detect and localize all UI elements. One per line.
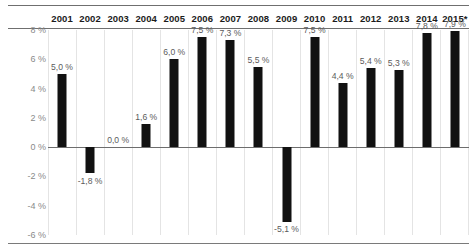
y-axis-tick-label: 0 % xyxy=(30,142,46,152)
year-header-2001: 2001 xyxy=(48,9,76,27)
bar-2010[interactable] xyxy=(310,37,319,147)
year-header-2011: 2011 xyxy=(329,9,357,27)
bar-value-label: 7,9 % xyxy=(444,19,466,29)
bar-column: 5,3 % xyxy=(385,30,413,235)
y-axis-tick-label: 8 % xyxy=(30,25,46,35)
bar-chart: 2001200220032004200520062007200820092010… xyxy=(0,0,473,252)
y-axis-tick-label: -4 % xyxy=(27,201,46,211)
bar-2015[interactable] xyxy=(450,31,459,147)
bar-column: 7,9 % xyxy=(441,30,469,235)
bar-value-label: 5,4 % xyxy=(360,56,382,66)
year-header-2012: 2012 xyxy=(357,9,385,27)
year-header-2010: 2010 xyxy=(301,9,329,27)
y-axis-tick-label: -2 % xyxy=(27,171,46,181)
plot-area: 5,0 %-1,8 %0,0 %1,6 %6,0 %7,5 %7,3 %5,5 … xyxy=(48,30,469,235)
year-header-2013: 2013 xyxy=(385,9,413,27)
bar-value-label: 7,5 % xyxy=(304,25,326,35)
bar-column: 7,5 % xyxy=(301,30,329,235)
bar-2006[interactable] xyxy=(198,37,207,147)
bar-column: 7,3 % xyxy=(216,30,244,235)
bar-value-label: 5,5 % xyxy=(247,55,269,65)
y-axis-tick-label: 2 % xyxy=(30,113,46,123)
y-axis-tick-label: -6 % xyxy=(27,230,46,240)
bar-value-label: 7,8 % xyxy=(416,21,438,31)
bar-column: 4,4 % xyxy=(329,30,357,235)
bar-2014[interactable] xyxy=(422,33,431,147)
bar-value-label: -5,1 % xyxy=(274,224,299,234)
bottom-divider xyxy=(8,243,469,244)
bars-layer: 5,0 %-1,8 %0,0 %1,6 %6,0 %7,5 %7,3 %5,5 … xyxy=(48,30,469,235)
bar-column: 1,6 % xyxy=(132,30,160,235)
year-header-2006: 2006 xyxy=(188,9,216,27)
bar-value-label: 4,4 % xyxy=(332,71,354,81)
year-header-2003: 2003 xyxy=(104,9,132,27)
bar-2013[interactable] xyxy=(394,70,403,148)
bar-2002[interactable] xyxy=(86,147,95,173)
y-axis-tick-label: 6 % xyxy=(30,54,46,64)
year-header-2009: 2009 xyxy=(273,9,301,27)
year-header-2005: 2005 xyxy=(160,9,188,27)
bar-value-label: 7,5 % xyxy=(191,25,213,35)
bar-value-label: 7,3 % xyxy=(219,28,241,38)
bar-value-label: 1,6 % xyxy=(135,112,157,122)
top-divider xyxy=(8,5,469,6)
bar-column: 0,0 % xyxy=(104,30,132,235)
bar-column: -5,1 % xyxy=(273,30,301,235)
year-header-2002: 2002 xyxy=(76,9,104,27)
bar-column: 5,5 % xyxy=(244,30,272,235)
year-header-2007: 2007 xyxy=(216,9,244,27)
y-axis-labels: 8 %6 %4 %2 %0 %-2 %-4 %-6 % xyxy=(8,30,48,235)
bar-value-label: 6,0 % xyxy=(163,47,185,57)
bar-2012[interactable] xyxy=(366,68,375,147)
bar-2008[interactable] xyxy=(254,67,263,148)
bar-column: 6,0 % xyxy=(160,30,188,235)
bar-value-label: -1,8 % xyxy=(78,176,103,186)
year-header-2004: 2004 xyxy=(132,9,160,27)
bar-column: 7,5 % xyxy=(188,30,216,235)
bar-2005[interactable] xyxy=(170,59,179,147)
bar-2004[interactable] xyxy=(142,124,151,147)
y-axis-tick-label: 4 % xyxy=(30,84,46,94)
bar-2007[interactable] xyxy=(226,40,235,147)
bar-column: 5,4 % xyxy=(357,30,385,235)
bar-2009[interactable] xyxy=(282,147,291,222)
year-header-2008: 2008 xyxy=(244,9,272,27)
year-header-row: 2001200220032004200520062007200820092010… xyxy=(48,9,469,27)
bar-column: -1,8 % xyxy=(76,30,104,235)
bar-column: 7,8 % xyxy=(413,30,441,235)
bar-value-label: 5,3 % xyxy=(388,58,410,68)
bar-2001[interactable] xyxy=(58,74,67,147)
bar-2011[interactable] xyxy=(338,83,347,147)
bar-value-label: 0,0 % xyxy=(107,135,129,145)
bar-value-label: 5,0 % xyxy=(51,62,73,72)
bar-column: 5,0 % xyxy=(48,30,76,235)
